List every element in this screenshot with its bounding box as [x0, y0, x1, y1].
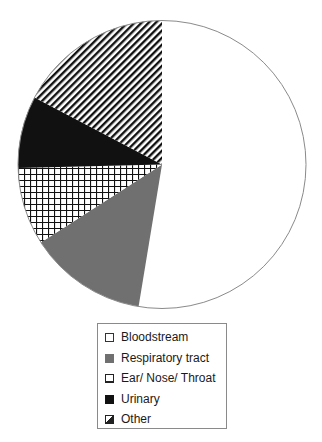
legend-swatch-white-icon — [105, 333, 114, 342]
pie-slices — [18, 21, 306, 309]
legend-label: Bloodstream — [121, 329, 188, 345]
legend-label: Ear/ Nose/ Throat — [121, 370, 216, 386]
legend: Bloodstream Respiratory tract Ear/ Nose/… — [97, 323, 227, 429]
legend-swatch-black-icon — [105, 395, 114, 404]
pie-slice-bloodstream — [139, 21, 306, 309]
legend-swatch-diagonal-icon — [105, 415, 114, 424]
legend-label: Other — [121, 411, 151, 427]
legend-swatch-gray-icon — [105, 354, 114, 363]
legend-label: Urinary — [121, 391, 160, 407]
legend-item-other: Other — [105, 411, 151, 427]
legend-item-bloodstream: Bloodstream — [105, 329, 188, 345]
legend-label: Respiratory tract — [121, 350, 209, 366]
legend-item-urinary: Urinary — [105, 391, 160, 407]
pie-chart — [0, 0, 322, 320]
legend-swatch-grid-icon — [105, 374, 114, 383]
legend-item-ear-nose-throat: Ear/ Nose/ Throat — [105, 370, 216, 386]
legend-item-respiratory-tract: Respiratory tract — [105, 350, 209, 366]
